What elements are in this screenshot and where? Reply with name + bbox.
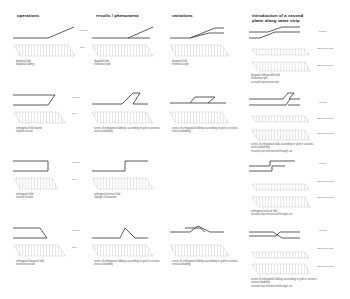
caption-line: reversed section xyxy=(16,263,96,266)
label-plan-upper: plan upper strip xyxy=(317,47,333,50)
caption-r4-second-plane: series of orthogonal foldings ascending … xyxy=(251,278,331,288)
caption-r2-second-plane: series of orthogonal folds ascending in … xyxy=(251,143,331,153)
caption-line: vertical doubling xyxy=(94,130,174,133)
label-plan: plan xyxy=(72,178,77,181)
caption-line: vertical doubling xyxy=(172,263,252,266)
row-2-plans xyxy=(14,112,310,140)
caption-line: vertical doubling xyxy=(172,130,252,133)
label-plan-upper: plan upper strip xyxy=(317,247,333,250)
label-plan: plan xyxy=(72,246,77,249)
row-1 xyxy=(13,27,300,38)
label-section: section xyxy=(72,161,80,164)
caption-r1-operation: diagonal fold diagonal folding xyxy=(16,60,96,67)
label-plan-lower: plan lower strip xyxy=(317,132,333,135)
label-plan-upper: plan upper strip xyxy=(317,180,333,183)
label-section-right: section xyxy=(319,30,327,33)
label-plan-lower: plan lower strip xyxy=(317,196,333,199)
caption-r3-second-plane: orthogonal vertical fold second strip in… xyxy=(251,210,331,217)
row-3 xyxy=(13,161,295,171)
caption-r2-result: series of orthogonal foldings ascending … xyxy=(94,127,174,134)
caption-line: second strip intersected through cut xyxy=(251,213,331,216)
label-plan-lower: plan lower strip xyxy=(317,64,333,67)
caption-r4-result: series of orthogonal foldings ascending … xyxy=(94,260,174,267)
caption-line: horizontal split xyxy=(172,63,252,66)
row-1-plans xyxy=(14,45,310,71)
caption-r3-result: orthogonal vertical fold change of eleva… xyxy=(94,193,174,200)
caption-r1-second-plane: diagonal fold parallel fold horizontal s… xyxy=(251,74,331,84)
caption-line: sloped section xyxy=(16,130,96,133)
caption-line: second strip intersected xyxy=(251,81,331,84)
label-section-right: section xyxy=(319,229,327,232)
row-2 xyxy=(13,93,300,105)
label-section: section xyxy=(72,96,80,99)
caption-line: change of elevation xyxy=(94,196,174,199)
label-section: section xyxy=(80,29,88,32)
caption-r3-operation: orthogonal fold vertical section xyxy=(16,193,96,200)
caption-r4-operation: orthogonal diagonal fold reversed sectio… xyxy=(16,260,96,267)
caption-line: second strip intersected through cut xyxy=(251,285,331,288)
caption-line: vertical section xyxy=(16,196,96,199)
caption-r2-operation: orthogonal fold sloped sloped section xyxy=(16,127,96,134)
label-plan: plan xyxy=(72,112,77,115)
label-plan: plan xyxy=(80,46,85,49)
label-plan-lower: plan lower strip xyxy=(317,265,333,268)
caption-r4-variation: series of orthogonal foldings ascending … xyxy=(172,260,252,267)
caption-line: diagonal folding xyxy=(16,63,96,66)
label-plan-upper: plan upper strip xyxy=(317,117,333,120)
row-4 xyxy=(13,226,300,238)
caption-r1-variation: diagonal fold horizontal split xyxy=(172,60,252,67)
caption-line: horizontal split xyxy=(94,63,174,66)
label-section-right: section xyxy=(319,162,327,165)
caption-r2-variation: series of orthogonal foldings ascending … xyxy=(172,127,252,134)
label-section-right: section xyxy=(319,101,327,104)
caption-r1-result: diagonal fold horizontal split xyxy=(94,60,174,67)
caption-line: vertical doubling xyxy=(94,263,174,266)
label-section: section xyxy=(72,229,80,232)
caption-line: second strip intersected through cut xyxy=(251,150,331,153)
